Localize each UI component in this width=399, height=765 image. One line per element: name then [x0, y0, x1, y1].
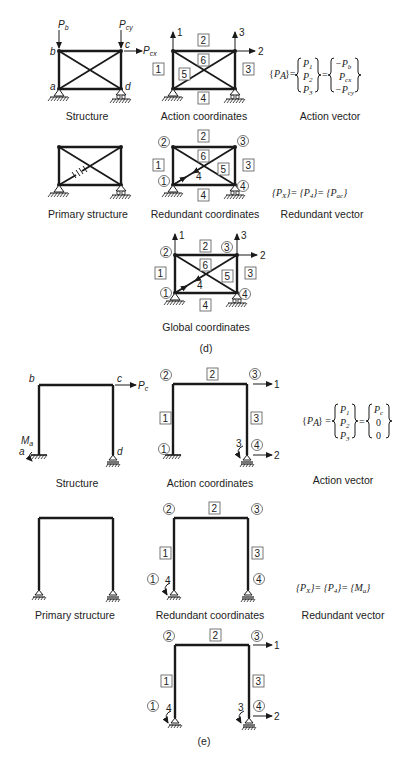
svg-text:1: 1 — [274, 379, 280, 390]
svg-text:a: a — [50, 81, 56, 92]
svg-text:b: b — [29, 373, 35, 384]
svg-text:P3: P3 — [302, 84, 313, 97]
e-redundant-coordinates: 4 2 3 1 4 2 1 3 Redundant coordinates — [148, 502, 265, 621]
svg-text:2: 2 — [210, 369, 216, 380]
svg-text:1: 1 — [156, 64, 162, 75]
e-action-vector: {PA} = P1 P2 P3 = Pc 0 0 Action vector — [302, 404, 392, 486]
svg-text:c: c — [125, 39, 130, 50]
svg-text:2: 2 — [213, 630, 219, 641]
svg-text:P1: P1 — [302, 58, 313, 71]
svg-text:2: 2 — [163, 247, 169, 258]
svg-text:3: 3 — [254, 413, 260, 424]
svg-text:c: c — [117, 373, 122, 384]
structural-figure: Pb Pcy Pcx b c a d Structure 1 3 2 2 6 5… — [0, 0, 399, 765]
svg-text:5: 5 — [221, 164, 227, 175]
svg-text:4: 4 — [201, 93, 207, 104]
svg-text:1: 1 — [163, 548, 169, 559]
svg-text:} =: } = — [318, 415, 331, 426]
svg-text:5: 5 — [225, 271, 231, 282]
svg-text:{PX}= {P4}= {Ma}: {PX}= {P4}= {Ma} — [296, 582, 370, 595]
e-structure: b c Pc Ma a d Structure — [19, 373, 149, 489]
svg-text:1: 1 — [161, 176, 167, 187]
caption: Structure — [56, 477, 99, 489]
svg-text:P2: P2 — [339, 417, 350, 430]
svg-text:2: 2 — [274, 450, 280, 461]
svg-text:2: 2 — [258, 46, 264, 57]
caption: Redundant coordinates — [156, 609, 265, 621]
figure-e-label: (e) — [198, 735, 211, 747]
d-structure: Pb Pcy Pcx b c a d Structure — [48, 19, 157, 122]
svg-text:a: a — [19, 446, 25, 457]
svg-text:5: 5 — [182, 69, 188, 80]
svg-text:2: 2 — [260, 250, 266, 261]
svg-text:{PX}= {P4}= {Pac}: {PX}= {P4}= {Pac} — [272, 187, 347, 200]
svg-text:3: 3 — [246, 64, 252, 75]
svg-text:4: 4 — [201, 190, 207, 201]
svg-text:d: d — [125, 81, 131, 92]
svg-text:2: 2 — [161, 137, 167, 148]
svg-text:=: = — [359, 416, 365, 427]
svg-text:}=: }= — [285, 68, 296, 79]
d-global-coordinates: 1 3 2 4 2 3 1 4 2 6 5 1 3 4 Global coord… — [155, 230, 266, 333]
svg-text:3: 3 — [236, 438, 242, 449]
svg-text:2: 2 — [203, 241, 209, 252]
caption: Structure — [66, 110, 109, 122]
svg-text:4: 4 — [242, 289, 248, 300]
caption: Redundant coordinates — [151, 208, 260, 220]
caption: Action vector — [300, 110, 361, 122]
svg-text:2: 2 — [274, 711, 280, 722]
svg-text:3: 3 — [241, 230, 247, 241]
svg-text:1: 1 — [163, 413, 169, 424]
svg-text:4: 4 — [166, 703, 172, 714]
svg-text:6: 6 — [201, 55, 207, 66]
caption: Action vector — [313, 474, 374, 486]
svg-text:2: 2 — [201, 131, 207, 142]
e-global-coordinates: 1 2 4 3 2 3 1 4 2 1 3 — [148, 629, 281, 730]
svg-text:1: 1 — [158, 268, 164, 279]
svg-text:1: 1 — [161, 444, 167, 455]
svg-text:3: 3 — [248, 268, 254, 279]
svg-text:6: 6 — [201, 151, 207, 162]
load-pb-label: Pb — [58, 19, 69, 31]
svg-text:4: 4 — [203, 300, 209, 311]
svg-text:1: 1 — [164, 676, 170, 687]
svg-text:4: 4 — [256, 574, 262, 585]
svg-text:1: 1 — [274, 640, 280, 651]
d-action-coordinates: 1 3 2 2 6 5 1 3 4 Action coordinates — [153, 27, 264, 122]
load-pcx-label: Pcx — [143, 45, 157, 57]
svg-text:3: 3 — [254, 504, 260, 515]
svg-text:4: 4 — [197, 280, 203, 291]
svg-text:d: d — [117, 446, 123, 457]
svg-text:Pc: Pc — [373, 404, 384, 417]
svg-text:4: 4 — [256, 701, 262, 712]
svg-text:P1: P1 — [339, 404, 350, 417]
figure-d-label: (d) — [200, 342, 213, 354]
svg-text:0: 0 — [376, 430, 381, 441]
svg-text:2: 2 — [163, 370, 169, 381]
d-action-vector: {PA}= P1 P2 P3 = −Pb Pcx −Pcy Action vec… — [269, 58, 361, 122]
svg-text:2: 2 — [166, 631, 172, 642]
svg-text:1: 1 — [150, 701, 156, 712]
svg-text:−Pcy: −Pcy — [335, 84, 355, 97]
svg-text:3: 3 — [239, 27, 245, 38]
svg-text:3: 3 — [238, 702, 244, 713]
e-primary-structure: Primary structure — [32, 518, 120, 621]
d-redundant-vector: {PX}= {P4}= {Pac} Redundant vector — [272, 187, 364, 220]
caption: Redundant vector — [281, 208, 364, 220]
e-action-coordinates: 1 2 3 2 3 1 4 2 1 3 Action coordinates — [159, 368, 281, 489]
svg-text:b: b — [50, 46, 56, 57]
svg-text:1: 1 — [150, 574, 156, 585]
svg-text:Pc: Pc — [138, 380, 149, 392]
d-redundant-coordinates: 4 2 3 1 4 2 6 5 1 3 4 Redundant coordina… — [151, 130, 260, 220]
svg-text:P2: P2 — [302, 71, 313, 84]
caption: Primary structure — [48, 208, 128, 220]
svg-text:2: 2 — [212, 503, 218, 514]
svg-text:0: 0 — [376, 417, 381, 428]
e-redundant-vector: {PX}= {P4}= {Ma} Redundant vector — [296, 582, 385, 621]
svg-text:P3: P3 — [339, 430, 350, 443]
caption: Action coordinates — [161, 110, 247, 122]
svg-text:4: 4 — [165, 575, 171, 586]
svg-text:3: 3 — [254, 631, 260, 642]
svg-text:3: 3 — [240, 136, 246, 147]
svg-text:1: 1 — [179, 230, 185, 241]
